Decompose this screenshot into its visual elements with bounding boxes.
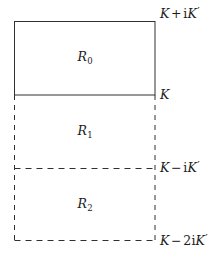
region-label-r1-base: R — [78, 123, 87, 138]
corner-label-k: K — [160, 89, 170, 102]
corner-label-minus2-prime: ′ — [205, 232, 208, 245]
corner-label-k-minus-ikprime: K−iK′ — [160, 162, 200, 175]
corner-label-k-plus-ikprime: K+iK′ — [160, 8, 200, 21]
region-label-r2-subscript: 2 — [87, 202, 92, 212]
corner-label-minus-prime: ′ — [197, 159, 200, 172]
corner-label-k-minus-2ikprime: K−2iK′ — [160, 235, 208, 248]
corner-label-top-k1: K — [160, 6, 170, 21]
region-label-r1-subscript: 1 — [87, 129, 92, 139]
corner-label-top-op: + — [170, 6, 184, 21]
corner-label-minus2-op: − — [170, 233, 184, 248]
figure-root: R0 R1 R2 K+iK′ K K−iK′ K−2iK′ — [0, 0, 224, 260]
region-label-r0-subscript: 0 — [87, 55, 92, 65]
corner-label-k-k1: K — [160, 87, 170, 102]
corner-label-minus2-k2: K — [196, 233, 206, 248]
corner-label-minus-op: − — [170, 160, 184, 175]
corner-label-minus-k1: K — [160, 160, 170, 175]
diagram-canvas — [0, 0, 224, 260]
region-label-r2-base: R — [78, 196, 87, 211]
corner-label-top-k2: K — [187, 6, 197, 21]
corner-label-minus2-coefficient: 2i — [183, 233, 195, 248]
region-label-r0-base: R — [78, 49, 87, 64]
region-label-r1: R1 — [78, 125, 93, 138]
corner-label-minus2-k1: K — [160, 233, 170, 248]
region-label-r0: R0 — [78, 51, 93, 64]
region-label-r2: R2 — [78, 198, 93, 211]
corner-label-minus-k2: K — [187, 160, 197, 175]
corner-label-top-prime: ′ — [197, 5, 200, 18]
